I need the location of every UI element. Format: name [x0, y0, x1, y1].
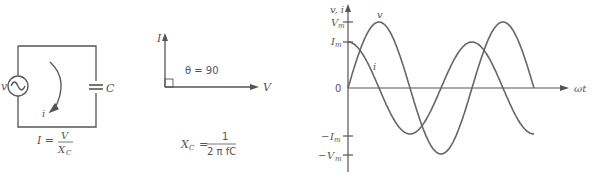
- waveform-axes: [343, 4, 569, 172]
- ac-wave-glyph: [11, 82, 25, 90]
- arrowhead-up-icon: [345, 4, 351, 12]
- circuit: [8, 46, 103, 127]
- reactance-formula: X C = 1 2 π fC: [180, 131, 236, 157]
- reactance-lhs-sub: C: [189, 144, 195, 152]
- svg-text:m: m: [335, 155, 342, 163]
- tick-label-vm: V m: [331, 17, 345, 30]
- phasor-i-label: I: [156, 32, 162, 45]
- tick-label-im: I m: [330, 36, 342, 49]
- svg-text:−: −: [321, 131, 329, 142]
- phase-angle-label: θ = 90: [185, 65, 219, 76]
- current-arrow: [50, 62, 61, 110]
- i-curve-label: i: [373, 61, 376, 72]
- phasor-diagram: [162, 33, 259, 90]
- phasor-v-label: V: [263, 81, 272, 94]
- v-curve-label: v: [377, 9, 383, 20]
- x-axis-label: ωt: [574, 83, 587, 94]
- svg-text:m: m: [334, 136, 341, 144]
- origin-label: 0: [335, 83, 341, 94]
- reactance-denominator: 2 π fC: [207, 146, 236, 157]
- svg-text:m: m: [338, 22, 345, 30]
- svg-text:m: m: [335, 41, 342, 49]
- circuit-wire: [18, 46, 96, 127]
- arrowhead-right-icon: [250, 84, 259, 90]
- ohms-law-formula: I = V X C: [36, 130, 73, 157]
- right-angle-marker: [165, 79, 173, 87]
- diagram-canvas: v C i I = V X C I V θ = 90 X C = 1 2 π f…: [0, 0, 593, 183]
- formula-denominator-sub: C: [66, 149, 72, 157]
- tick-label-neg-im: − I m: [321, 131, 341, 144]
- tick-label-neg-vm: − V m: [318, 150, 342, 163]
- formula-denominator: X: [57, 144, 66, 155]
- y-axis-label: v, i: [330, 4, 344, 15]
- arrowhead-right-icon: [560, 85, 569, 91]
- svg-text:−: −: [318, 150, 326, 161]
- arrowhead-up-icon: [162, 33, 168, 41]
- formula-lhs: I =: [36, 134, 54, 147]
- current-label: i: [42, 108, 45, 119]
- reactance-numerator: 1: [222, 131, 228, 142]
- capacitor-label: C: [106, 82, 115, 95]
- source-label: v: [1, 80, 8, 93]
- formula-numerator: V: [61, 130, 70, 141]
